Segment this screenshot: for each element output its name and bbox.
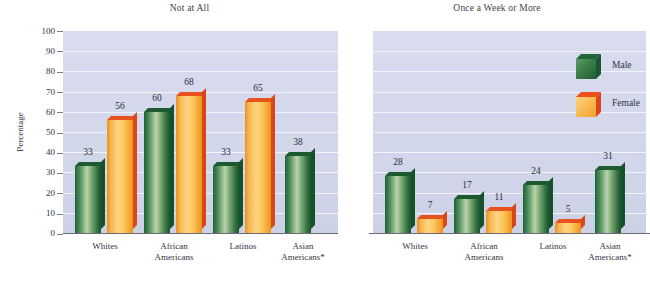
y-tick-label: 60 <box>29 107 55 117</box>
category-label-asian-americans: Asian Americans* <box>263 241 343 263</box>
y-axis-title: Percentage <box>15 112 25 151</box>
bar-value: 68 <box>184 77 194 87</box>
bar-female-african-americans: 11 <box>486 211 512 233</box>
bar-value: 60 <box>152 93 162 103</box>
plot-area-right: Male Female 28 7 17 <box>373 31 646 233</box>
bar-value: 17 <box>462 180 472 190</box>
y-axis-tick-labels: 100 90 80 70 60 50 40 30 20 10 0 <box>26 31 55 233</box>
y-tick-label: 80 <box>29 66 55 76</box>
bar-female-whites: 56 <box>107 120 133 233</box>
bar-female-latinos: 5 <box>555 223 581 233</box>
y-tick-label: 20 <box>29 188 55 198</box>
bar-male-whites: 28 <box>385 176 411 233</box>
bar-value: 33 <box>83 147 93 157</box>
bar-female-african-americans: 68 <box>176 96 202 233</box>
bar-value: 31 <box>603 151 613 161</box>
category-label-asian-americans: Asian Americans* <box>571 241 649 263</box>
y-tick-label: 40 <box>29 147 55 157</box>
y-axis-title-wrapper: Percentage <box>2 31 20 233</box>
bar-value: 33 <box>221 147 231 157</box>
bar-male-asian-americans: 31 <box>595 170 621 233</box>
category-label-african-americans: African Americans <box>449 241 519 263</box>
bar-value: 24 <box>531 166 541 176</box>
legend-label-female: Female <box>612 98 640 108</box>
y-tick-label: 70 <box>29 87 55 97</box>
chart-panel-once-a-week-or-more: Once a Week or More Male <box>345 0 649 284</box>
bar-value: 28 <box>393 157 403 167</box>
bar-female-latinos: 65 <box>245 102 271 233</box>
bar-male-latinos: 33 <box>213 166 239 233</box>
category-label-whites: Whites <box>70 241 140 252</box>
plot-area-left: 33 56 60 68 33 65 <box>63 31 338 233</box>
legend-swatch-male-icon <box>576 54 596 74</box>
x-axis-baseline-right <box>369 233 650 234</box>
legend-swatch-female-icon <box>576 92 596 112</box>
bar-value: 38 <box>293 137 303 147</box>
bar-value: 11 <box>494 192 503 202</box>
chart-panel-not-at-all: Not at All Percentage 100 90 80 70 60 50… <box>0 0 345 284</box>
bar-male-whites: 33 <box>75 166 101 233</box>
bar-male-asian-americans: 38 <box>285 156 311 233</box>
bar-male-latinos: 24 <box>523 185 549 233</box>
bar-male-african-americans: 60 <box>144 112 170 233</box>
bar-value: 5 <box>566 204 571 214</box>
y-tick-label: 50 <box>29 127 55 137</box>
y-tick-label: 90 <box>29 46 55 56</box>
y-tick-label: 0 <box>29 228 55 238</box>
y-tick-label: 10 <box>29 208 55 218</box>
bar-male-african-americans: 17 <box>454 199 480 233</box>
y-tick-label: 30 <box>29 167 55 177</box>
panel-title-left: Not at All <box>0 3 345 13</box>
bar-value: 7 <box>428 200 433 210</box>
category-label-african-americans: African Americans <box>139 241 209 263</box>
x-axis-baseline-left <box>63 233 338 234</box>
y-tick-label: 100 <box>29 26 55 36</box>
panel-title-right: Once a Week or More <box>345 3 649 13</box>
bar-value: 56 <box>115 101 125 111</box>
category-label-whites: Whites <box>380 241 450 252</box>
bar-value: 65 <box>253 83 263 93</box>
legend-label-male: Male <box>612 60 632 70</box>
bar-female-whites: 7 <box>417 219 443 233</box>
